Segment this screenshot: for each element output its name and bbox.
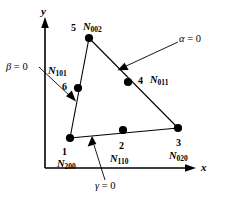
gamma-leader-arrowhead: [88, 136, 97, 147]
alpha-leader-arrowhead: [118, 63, 129, 70]
gamma-leader-line: [94, 145, 105, 180]
alpha-symbol: α: [179, 33, 185, 44]
node-shapefn-5-base: N: [83, 21, 91, 32]
beta-symbol: β: [6, 61, 11, 72]
node-number-1: 1: [62, 147, 67, 157]
x-axis-arrowhead: [185, 164, 196, 172]
node-shapefn-5: N002: [83, 22, 102, 33]
node-shapefn-6: N101: [48, 66, 67, 77]
node-number-3: 3: [176, 138, 181, 148]
y-axis-label: y: [41, 6, 46, 17]
triangular-element-diagram: y x 5 N002 N101 6 4 N011 1 N200 2 N110 3…: [0, 0, 226, 199]
alpha-leader-line: [124, 42, 178, 67]
beta-leader-arrowhead: [66, 91, 76, 102]
node-number-4: 4: [138, 76, 143, 86]
gamma-symbol: γ: [95, 180, 99, 191]
node-shapefn-1: N200: [57, 159, 76, 170]
node-shapefn-6-sub: 101: [56, 69, 67, 78]
node-shapefn-6-base: N: [48, 65, 56, 76]
node-shapefn-3-sub: 020: [177, 154, 188, 163]
node-shapefn-5-sub: 002: [91, 25, 102, 34]
node-number-6: 6: [62, 82, 67, 92]
node-marker-2: [119, 126, 127, 134]
alpha-zero-annotation: α = 0: [179, 34, 201, 45]
node-shapefn-2-base: N: [110, 153, 118, 164]
triangle-edges-group: [70, 38, 178, 138]
y-axis-arrowhead: [41, 17, 49, 28]
beta-zero-annotation: β = 0: [6, 62, 28, 73]
node-marker-1: [66, 134, 74, 142]
gamma-equals: = 0: [102, 180, 116, 191]
node-shapefn-1-sub: 200: [65, 162, 76, 171]
node-number-5: 5: [71, 23, 76, 33]
node-shapefn-4-sub: 011: [158, 78, 169, 87]
node-shapefn-3: N020: [169, 151, 188, 162]
gamma-zero-annotation: γ = 0: [95, 181, 116, 192]
x-axis-label: x: [201, 162, 207, 173]
node-shapefn-4-base: N: [150, 74, 158, 85]
node-shapefn-2: N110: [110, 154, 128, 165]
diagram-canvas: [0, 0, 226, 199]
node-shapefn-4: N011: [150, 75, 168, 86]
node-marker-4: [124, 78, 132, 86]
alpha-equals: = 0: [187, 33, 201, 44]
node-markers-group: [66, 34, 182, 142]
node-marker-6: [74, 84, 82, 92]
node-shapefn-1-base: N: [57, 158, 65, 169]
beta-equals: = 0: [14, 61, 28, 72]
node-number-2: 2: [119, 141, 124, 151]
node-marker-3: [174, 124, 182, 132]
node-shapefn-2-sub: 110: [118, 157, 129, 166]
node-marker-5: [85, 34, 93, 42]
node-shapefn-3-base: N: [169, 150, 177, 161]
